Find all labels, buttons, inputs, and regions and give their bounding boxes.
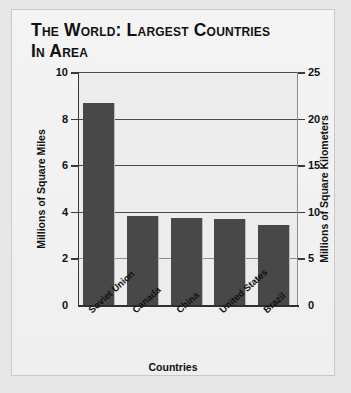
x-axis-title: Countries [12, 361, 334, 373]
chart-title-line2: in Area [31, 41, 321, 62]
bar-soviet-union [83, 103, 115, 305]
y-label-right-10: 10 [308, 207, 330, 218]
bar-brazil [258, 225, 290, 305]
y-tick-left-8 [71, 119, 78, 121]
chart-card: The World: Largest Countries in Area Mil… [11, 9, 335, 376]
y-tick-right-15 [298, 165, 305, 167]
x-axis-category-labels: Soviet UnionCanadaChinaUnited StatesBraz… [78, 307, 296, 363]
y-label-left-6: 6 [46, 160, 68, 171]
y-label-left-4: 4 [46, 207, 68, 218]
y-label-left-2: 2 [46, 253, 68, 264]
y-tick-right-25 [298, 72, 305, 74]
y-label-right-25: 25 [308, 67, 330, 78]
y-tick-left-10 [71, 72, 78, 74]
y-axis-title-left: Millions of Square Miles [34, 72, 48, 305]
chart-title: The World: Largest Countries in Area [31, 20, 321, 62]
y-label-left-10: 10 [46, 67, 68, 78]
y-tick-right-20 [298, 119, 305, 121]
y-tick-left-2 [71, 258, 78, 260]
bar-china [171, 218, 203, 305]
y-label-left-8: 8 [46, 114, 68, 125]
y-tick-left-4 [71, 212, 78, 214]
y-label-left-0: 0 [46, 300, 68, 311]
y-label-right-0: 0 [308, 300, 330, 311]
chart-title-line1: The World: Largest Countries [31, 20, 270, 40]
y-label-right-5: 5 [308, 253, 330, 264]
y-label-right-20: 20 [308, 114, 330, 125]
y-label-right-15: 15 [308, 160, 330, 171]
y-axis-title-right: Millions of Square Kilometers [317, 72, 331, 305]
y-tick-left-6 [71, 165, 78, 167]
y-tick-right-5 [298, 258, 305, 260]
chart-page: The World: Largest Countries in Area Mil… [0, 0, 351, 393]
y-tick-right-10 [298, 212, 305, 214]
